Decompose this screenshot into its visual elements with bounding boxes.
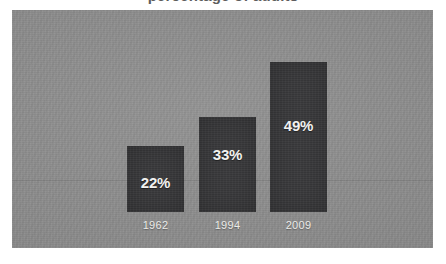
bar-group-1994: 33% 1994	[199, 117, 256, 212]
bar-value-1962: 22%	[127, 174, 184, 191]
plot-area: 22% 1962 33% 1994 49% 2009	[12, 10, 433, 248]
bar-1962[interactable]: 22%	[127, 146, 184, 212]
chart-title-text: percentage of adults	[0, 0, 446, 4]
bar-texture	[199, 117, 256, 212]
bar-group-1962: 22% 1962	[127, 146, 184, 212]
bar-category-label-1994: 1994	[199, 219, 256, 231]
bar-group-2009: 49% 2009	[270, 62, 327, 212]
bar-category-label-2009: 2009	[270, 219, 327, 231]
bar-value-1994: 33%	[199, 146, 256, 163]
chart-panel: 22% 1962 33% 1994 49% 2009	[12, 10, 433, 248]
bar-texture	[270, 62, 327, 212]
chart-title-remnant: percentage of adults	[0, 0, 446, 7]
bar-1994[interactable]: 33%	[199, 117, 256, 212]
bar-category-label-1962: 1962	[127, 219, 184, 231]
bar-2009[interactable]: 49%	[270, 62, 327, 212]
bar-value-2009: 49%	[270, 117, 327, 134]
